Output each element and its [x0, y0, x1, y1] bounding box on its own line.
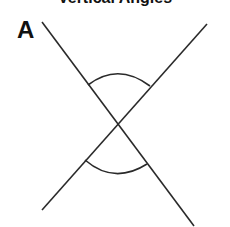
- line-2: [42, 24, 207, 210]
- intersecting-lines-diagram: [0, 0, 230, 227]
- top-angle-arc: [88, 74, 150, 86]
- bottom-angle-arc: [85, 160, 147, 174]
